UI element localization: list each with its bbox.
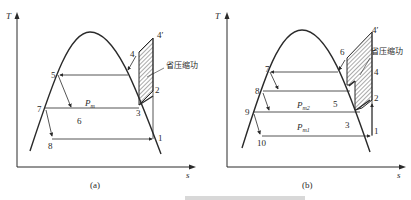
hatched-area-a [139,38,153,105]
y-axis-arrow-icon [15,12,20,19]
point-label-3-b: 3 [345,120,350,130]
bottom-caption-cutoff [185,196,305,200]
axis-label-s-b: s [397,170,401,180]
axes-b [227,16,403,167]
point-label-6-a: 6 [77,116,82,126]
axis-label-T-b: T [215,11,221,21]
point-label-8-a: 8 [48,141,53,151]
point-label-5-b: 5 [333,99,338,109]
panel-a: T s 4′ 4 2 3 1 5 6 7 8 Pm 省压缩功 (a) [6,11,198,190]
point-label-4prime-a: 4′ [157,30,164,40]
saved-work-label-b: 省压缩功 [371,46,403,56]
point-label-1-b: 1 [374,126,379,136]
point-label-5-a: 5 [51,70,56,80]
axis-label-T-a: T [6,11,12,21]
y-axis-arrow-icon [225,12,230,19]
point-label-10-b: 10 [257,138,267,148]
caption-a: (a) [90,180,100,190]
point-label-4-a: 4 [130,49,135,59]
refrigeration-ts-diagrams: T s 4′ 4 2 3 1 5 6 7 8 Pm 省压缩功 (a) [0,0,411,200]
point-label-9-b: 9 [245,107,250,117]
point-label-7-a: 7 [37,104,42,114]
point-label-3-a: 3 [136,108,141,118]
pressure-label-a: Pm [84,98,96,109]
x-axis-arrow-icon [399,165,406,170]
pressure-label-m2-b: Pm2 [296,100,310,111]
point-label-7-b: 7 [265,64,270,74]
pressure-label-m1-b: Pm1 [296,122,310,133]
caption-b: (b) [302,180,313,190]
point-label-2-b: 2 [374,93,379,103]
saved-work-label-a: 省压缩功 [166,60,198,70]
point-label-2-a: 2 [155,85,160,95]
point-label-8-b: 8 [255,86,260,96]
point-label-1-a: 1 [158,133,163,143]
point-label-4-b: 4 [374,67,379,77]
x-axis-arrow-icon [189,165,196,170]
point-label-6-b: 6 [340,47,345,57]
axis-label-s-a: s [186,170,190,180]
panel-b: T s 4′ 6 4 2 5 3 1 7 8 9 10 Pm2 Pm1 [215,11,406,190]
point-label-4prime-b: 4′ [372,25,379,35]
